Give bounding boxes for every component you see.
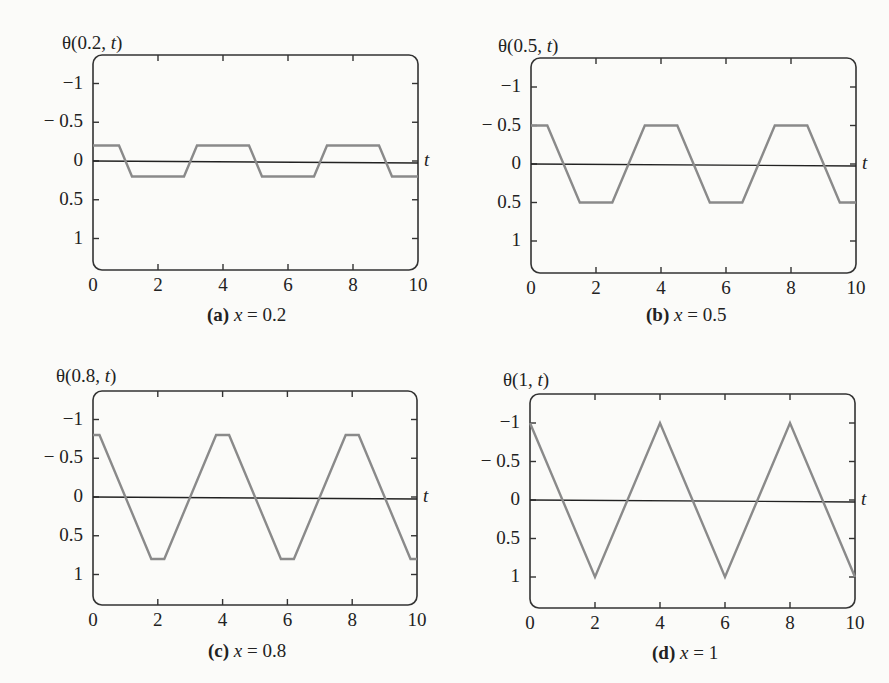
y-tick-label: 1: [460, 565, 520, 587]
x-tick-label: 0: [510, 612, 550, 634]
caption-value: = 1: [688, 642, 718, 663]
x-tick-label: 4: [640, 612, 680, 634]
caption-tag: (d): [652, 642, 675, 663]
y-tick-label: −1: [460, 411, 520, 433]
x-tick-label: 8: [770, 612, 810, 634]
x-tick-label: 10: [835, 612, 875, 634]
y-tick-label: 0: [460, 488, 520, 510]
x-tick-label: 2: [575, 612, 615, 634]
x-tick-label: 6: [705, 612, 745, 634]
panel-caption: (d) x = 1: [652, 642, 718, 664]
t-axis-label: t: [861, 488, 866, 510]
chart-panel-d: θ(1, t) t (d) x = 1 10.50− 0.5−10246810: [0, 0, 889, 683]
plot-area: [0, 0, 889, 683]
y-tick-label: − 0.5: [460, 450, 520, 472]
y-tick-label: 0.5: [460, 527, 520, 549]
